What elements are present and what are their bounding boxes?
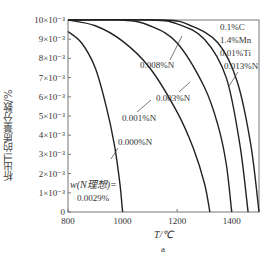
svg-text:1.4%Mn: 1.4%Mn xyxy=(220,35,252,45)
label-0.008N: 0.008%N xyxy=(140,60,175,70)
y-tick-label: 1×10⁻³ xyxy=(39,188,66,198)
svg-text:w(N理想)=: w(N理想)= xyxy=(70,179,117,191)
y-axis-ticks: 01×10⁻³2×10⁻³3×10⁻³4×10⁻³5×10⁻³6×10⁻³7×1… xyxy=(34,15,71,217)
y-tick-label: 4×10⁻³ xyxy=(39,130,66,140)
x-tick-label: 800 xyxy=(61,216,75,226)
label-0.000N: 0.000%N xyxy=(118,137,153,147)
label-0.001N: 0.001%N xyxy=(122,113,157,123)
subfigure-label: a xyxy=(161,244,165,254)
svg-text:0.013%N: 0.013%N xyxy=(224,61,259,71)
y-tick-label: 10×10⁻³ xyxy=(34,15,65,25)
ideal-note: w(N理想)= 0.0029% xyxy=(70,179,117,203)
y-tick-label: 2×10⁻³ xyxy=(39,169,66,179)
chart-svg: 01×10⁻³2×10⁻³3×10⁻³4×10⁻³5×10⁻³6×10⁻³7×1… xyxy=(0,0,274,259)
y-tick-label: 7×10⁻³ xyxy=(39,73,66,83)
leader-0.003N xyxy=(179,82,190,92)
leader-0.001N xyxy=(137,100,151,112)
y-tick-label: 5×10⁻³ xyxy=(39,111,66,121)
x-axis-label: T/℃ xyxy=(154,229,175,240)
y-tick-label: 8×10⁻³ xyxy=(39,53,66,63)
y-tick-label: 3×10⁻³ xyxy=(39,149,66,159)
composition-note: 0.1%C 1.4%Mn 0.01%Ti 0.013%N xyxy=(220,22,259,71)
leader-0.008N xyxy=(170,36,182,60)
x-tick-label: 1000 xyxy=(114,216,133,226)
svg-text:0.0029%: 0.0029% xyxy=(77,193,110,203)
y-axis-label: 析出Ti的质量分数/% xyxy=(2,60,16,210)
svg-text:0.1%C: 0.1%C xyxy=(220,22,245,32)
x-tick-label: 1400 xyxy=(223,216,242,226)
y-tick-label: 9×10⁻³ xyxy=(39,34,66,44)
x-tick-label: 1200 xyxy=(168,216,187,226)
svg-text:0.01%Ti: 0.01%Ti xyxy=(220,48,251,58)
label-0.003N: 0.003%N xyxy=(156,93,191,103)
y-tick-label: 6×10⁻³ xyxy=(39,92,66,102)
